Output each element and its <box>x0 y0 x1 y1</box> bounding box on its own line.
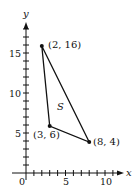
point-label-2-16: (2, 16) <box>48 40 81 50</box>
point-label-3-6: (3, 6) <box>33 130 60 140</box>
region-label-s: S <box>57 102 64 112</box>
x-tick-5: 5 <box>63 177 69 187</box>
origin-label: 0 <box>19 177 25 187</box>
point-label-8-4: (8, 4) <box>93 137 120 147</box>
point-2-16 <box>40 44 44 48</box>
x-axis-arrow-icon <box>117 171 124 176</box>
y-tick-10: 10 <box>9 89 21 99</box>
x-tick-10: 10 <box>100 177 112 187</box>
point-8-4 <box>87 140 91 144</box>
x-axis-label: x <box>126 168 132 178</box>
point-3-6 <box>48 124 52 128</box>
y-tick-5: 5 <box>15 129 21 139</box>
y-axis-label: y <box>23 9 29 19</box>
y-axis-arrow-icon <box>24 22 29 29</box>
y-tick-15: 15 <box>9 49 21 59</box>
